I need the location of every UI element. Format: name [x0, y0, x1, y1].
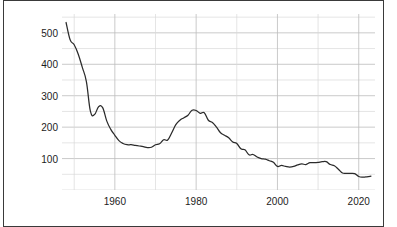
chart-figure: Employment in Coal mining (thousands) 10…: [0, 0, 397, 227]
x-axis-ticks: 1960198020002020: [0, 0, 397, 227]
x-tick-label: 1980: [171, 196, 221, 207]
x-tick-label: 1960: [90, 196, 140, 207]
x-tick-label: 2000: [252, 196, 302, 207]
x-tick-label: 2020: [334, 196, 384, 207]
